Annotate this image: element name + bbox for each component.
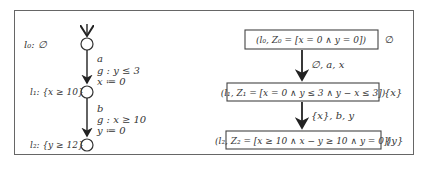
zone-node-label-0: (l₀, Z₀ = [x = 0 ∧ y = 0]) — [256, 35, 366, 45]
edge-guard-a: g : y ≤ 3 — [97, 65, 140, 76]
edge-reset-b: y ≔ 0 — [96, 125, 126, 136]
location-label-l0: l₀: ∅ — [24, 39, 48, 50]
zone-node-side-1: {x} — [384, 87, 402, 98]
zone-node-side-2: {y} — [385, 135, 403, 146]
diagram-canvas: l₀: ∅ a g : y ≤ 3 x ≔ 0 l₁: {x ≥ 10} b g… — [0, 0, 430, 169]
edge-action-a: a — [97, 53, 103, 64]
zone-node-label-1: (l₁, Z₁ = [x = 0 ∧ y ≤ 3 ∧ y − x ≤ 3]) — [221, 88, 386, 98]
edge-reset-a: x ≔ 0 — [97, 76, 126, 87]
zone-node-label-2: (l₂, Z₂ = [x ≥ 10 ∧ x − y ≥ 10 ∧ y = 0]) — [215, 136, 391, 146]
zone-edge-label-1: {x}, b, y — [311, 110, 354, 121]
zone-node-side-0: ∅ — [385, 34, 394, 45]
zone-graph: (l₀, Z₀ = [x = 0 ∧ y = 0]) ∅ ∅, a, x (l₁… — [215, 30, 403, 149]
location-label-l2: l₂: {y ≥ 12} — [30, 140, 84, 150]
location-l0 — [81, 38, 93, 50]
edge-guard-b: g : x ≥ 10 — [97, 114, 147, 125]
edge-action-b: b — [97, 103, 103, 114]
location-label-l1: l₁: {x ≥ 10} — [30, 87, 84, 97]
timed-automaton: l₀: ∅ a g : y ≤ 3 x ≔ 0 l₁: {x ≥ 10} b g… — [24, 24, 147, 151]
zone-edge-label-0: ∅, a, x — [311, 59, 345, 70]
